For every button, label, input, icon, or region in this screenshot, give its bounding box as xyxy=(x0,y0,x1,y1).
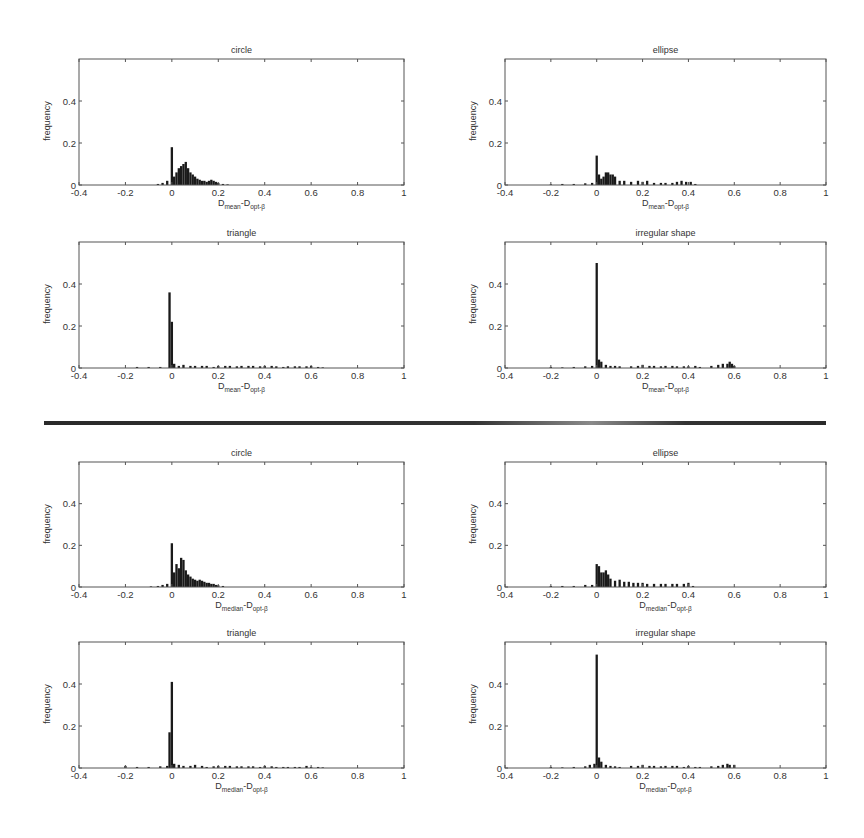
histogram-bar xyxy=(598,360,600,368)
x-tick-label: 0.6 xyxy=(728,370,741,381)
x-tick-label: -0.2 xyxy=(543,589,559,600)
histogram-bar xyxy=(618,181,620,185)
histogram-bar xyxy=(637,181,639,185)
plot-area: -0.4-0.200.20.40.60.8100.20.4 xyxy=(505,59,826,185)
plot-area: -0.4-0.200.20.40.60.8100.20.4 xyxy=(79,642,404,768)
x-tick-label: 0.6 xyxy=(728,589,741,600)
histogram-bar xyxy=(726,364,728,368)
y-axis-label: frequency xyxy=(42,91,52,151)
histogram-bar xyxy=(596,655,598,768)
x-axis-label: Dmean-Dopt-β xyxy=(79,381,404,393)
plot-area: -0.4-0.200.20.40.60.8100.20.4 xyxy=(79,59,404,185)
x-tick-label: 0.2 xyxy=(212,770,225,781)
x-axis-label: Dmean-Dopt-β xyxy=(505,381,826,393)
histogram-panel-mean-irregular: irregular shape frequency -0.4-0.200.20.… xyxy=(505,242,826,368)
histogram-bar xyxy=(180,558,182,587)
histogram-bar xyxy=(166,181,168,185)
y-tick-label: 0 xyxy=(71,763,76,774)
y-tick-label: 0.4 xyxy=(489,279,502,290)
histogram-bar xyxy=(729,362,731,368)
x-label-mid: -D xyxy=(665,198,675,208)
histogram-bar xyxy=(609,579,611,587)
x-label-mid: -D xyxy=(667,600,677,610)
x-tick-label: -0.2 xyxy=(117,589,133,600)
histogram-bar xyxy=(206,583,208,587)
histogram-bar xyxy=(646,181,648,185)
axes-frame xyxy=(505,59,826,185)
histogram-panel-mean-ellipse: ellipse frequency -0.4-0.200.20.40.60.81… xyxy=(505,59,826,185)
panel-title: ellipse xyxy=(505,45,826,55)
x-tick-label: 1 xyxy=(823,770,828,781)
y-tick-label: 0 xyxy=(497,363,502,374)
histogram-bar xyxy=(173,364,175,368)
histogram-bar xyxy=(178,568,180,587)
x-tick-label: 0.6 xyxy=(305,589,318,600)
y-tick-label: 0 xyxy=(71,582,76,593)
x-tick-label: 0.8 xyxy=(774,770,787,781)
x-tick-label: 0 xyxy=(169,770,174,781)
x-tick-label: 0.2 xyxy=(636,370,649,381)
x-tick-label: -0.2 xyxy=(117,187,133,198)
histogram-bar xyxy=(171,147,173,185)
histogram-bar xyxy=(180,166,182,185)
plot-area: -0.4-0.200.20.40.60.8100.20.4 xyxy=(505,242,826,368)
y-tick-label: 0.4 xyxy=(63,96,76,107)
histogram-bar xyxy=(178,168,180,185)
x-tick-label: 0 xyxy=(594,370,599,381)
y-tick-label: 0.4 xyxy=(489,96,502,107)
x-tick-label: 0.2 xyxy=(212,589,225,600)
y-axis-label: frequency xyxy=(42,494,52,554)
x-tick-label: 0.4 xyxy=(258,770,271,781)
histogram-bar xyxy=(187,575,189,588)
histogram-panel-median-ellipse: ellipse frequency -0.4-0.200.20.40.60.81… xyxy=(505,462,826,587)
plot-area: -0.4-0.200.20.40.60.8100.20.4 xyxy=(79,242,404,368)
panel-title: ellipse xyxy=(505,448,826,458)
panel-title: irregular shape xyxy=(505,228,826,238)
y-axis-label: frequency xyxy=(42,674,52,734)
y-tick-label: 0.2 xyxy=(63,321,76,332)
x-label-mid: -D xyxy=(665,381,675,391)
histogram-bar xyxy=(637,583,639,587)
x-axis-label: Dmean-Dopt-β xyxy=(505,198,826,210)
x-label-mid: -D xyxy=(241,198,251,208)
y-tick-label: 0.2 xyxy=(489,321,502,332)
histogram-bar xyxy=(203,582,205,587)
histogram-bar xyxy=(602,177,604,185)
histogram-bar xyxy=(680,181,682,185)
histogram-bar xyxy=(199,180,201,185)
histogram-bar xyxy=(182,560,184,587)
y-tick-label: 0.2 xyxy=(63,540,76,551)
y-tick-label: 0 xyxy=(71,180,76,191)
y-tick-label: 0 xyxy=(497,582,502,593)
histogram-bar xyxy=(628,582,630,587)
axes-frame xyxy=(505,642,826,768)
y-tick-label: 0 xyxy=(71,363,76,374)
histogram-bar xyxy=(598,175,600,186)
x-tick-label: 0.4 xyxy=(258,370,271,381)
x-tick-label: 1 xyxy=(401,187,406,198)
histogram-panel-mean-triangle: triangle frequency -0.4-0.200.20.40.60.8… xyxy=(79,242,404,368)
plot-area: -0.4-0.200.20.40.60.8100.20.4 xyxy=(505,462,826,587)
y-tick-label: 0.4 xyxy=(63,679,76,690)
x-label-sub1: median xyxy=(222,786,243,793)
plot-area: -0.4-0.200.20.40.60.8100.20.4 xyxy=(79,462,404,587)
x-label-sub2: opt-β xyxy=(674,386,689,393)
y-axis-label: frequency xyxy=(468,674,478,734)
y-tick-label: 0.4 xyxy=(489,679,502,690)
histogram-bar xyxy=(208,181,210,185)
x-tick-label: 1 xyxy=(401,370,406,381)
panel-title: triangle xyxy=(79,228,404,238)
x-label-sub1: mean xyxy=(648,203,664,210)
section-divider xyxy=(44,421,826,425)
axes-frame xyxy=(79,242,404,368)
histogram-bar xyxy=(598,758,600,769)
x-axis-label: Dmedian-Dopt-β xyxy=(505,781,826,793)
y-axis-label: frequency xyxy=(468,274,478,334)
x-tick-label: 0.6 xyxy=(728,770,741,781)
x-axis-label: Dmedian-Dopt-β xyxy=(79,781,404,793)
histogram-bar xyxy=(196,179,198,185)
y-tick-label: 0.4 xyxy=(489,498,502,509)
histogram-bar xyxy=(173,764,175,768)
histogram-bar xyxy=(607,575,609,588)
histogram-bar xyxy=(212,181,214,185)
